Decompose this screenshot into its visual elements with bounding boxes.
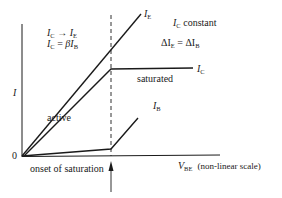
x-axis <box>22 155 220 157</box>
ic-curve-label: IC <box>197 63 205 77</box>
sat-rule-die-equals-dib: ΔIE = ΔIB <box>161 37 200 51</box>
y-axis-label: I <box>13 87 16 98</box>
onset-of-saturation-label: onset of saturation <box>30 163 104 174</box>
active-region-label: active <box>47 112 71 123</box>
active-rule-ic-beta-ib: IC = βIB <box>47 38 78 52</box>
ie-curve-label: IE <box>144 8 151 22</box>
bjt-saturation-diagram: I 0 IC → IE IC = βIB IC constant ΔIE = Δ… <box>0 0 282 198</box>
x-axis-label: VBE (non-linear scale) <box>178 160 261 174</box>
onset-arrow-icon <box>109 161 114 171</box>
sat-rule-ic-constant: IC constant <box>173 17 217 31</box>
origin-label: 0 <box>12 150 17 161</box>
ib-curve <box>22 118 138 156</box>
ib-curve-label: IB <box>153 100 161 114</box>
saturated-region-label: saturated <box>137 73 173 84</box>
